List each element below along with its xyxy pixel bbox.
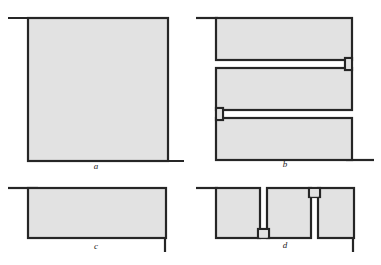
panel-b-bar-2: [216, 68, 352, 110]
panel-d-bar-2: [267, 188, 311, 238]
panel-c-block: [28, 188, 166, 238]
panel-b-connector-left-fill: [218, 109, 222, 119]
panel-b-bar-3: [216, 118, 352, 160]
panel-a-label: a: [8, 162, 184, 171]
panel-b-bar-1: [216, 18, 352, 60]
panel-b-label: b: [196, 160, 374, 169]
panel-d-connector-bottom-fill: [259, 230, 268, 238]
panel-d-label: d: [196, 241, 374, 250]
panel-b-svg: [196, 14, 374, 174]
panel-a-block: [28, 18, 168, 161]
panel-d-bar-3: [318, 188, 354, 238]
panel-c-label: c: [8, 242, 184, 251]
panel-d-svg: [196, 184, 374, 262]
panel-d-connector-top-fill: [310, 189, 319, 197]
panel-d-bar-1: [216, 188, 260, 238]
panel-a-svg: [8, 14, 184, 174]
panel-b-connector-right-fill: [347, 59, 351, 69]
panel-d-shape: [196, 184, 374, 262]
panel-a-shape: [8, 14, 184, 174]
panel-b-shape: [196, 14, 374, 174]
figure-canvas: a b: [0, 0, 381, 265]
